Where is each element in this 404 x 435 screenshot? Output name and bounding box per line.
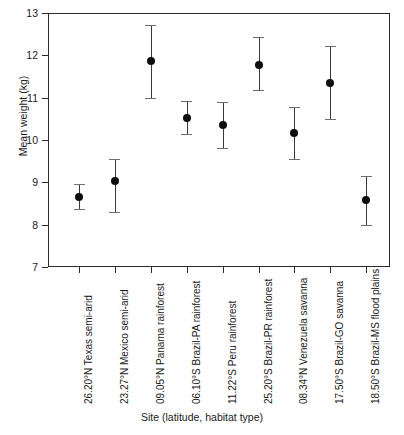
error-cap-upper [325, 46, 336, 47]
error-cap-lower [181, 134, 192, 135]
data-point-marker [255, 61, 263, 69]
error-cap-lower [289, 159, 300, 160]
error-cap-lower [325, 119, 336, 120]
error-cap-lower [253, 90, 264, 91]
data-point-marker [362, 196, 370, 204]
data-point-marker [111, 177, 119, 185]
data-point-marker [183, 114, 191, 122]
error-cap-lower [217, 148, 228, 149]
error-cap-upper [361, 176, 372, 177]
error-cap-upper [109, 159, 120, 160]
error-cap-lower [74, 209, 85, 210]
error-cap-upper [181, 101, 192, 102]
error-cap-upper [217, 102, 228, 103]
x-axis-title: Site (latitude, habitat type) [0, 411, 404, 423]
data-point-marker [147, 57, 155, 65]
figure-panel: Mean weight (kg) 78910111213 26.20°N Tex… [0, 0, 404, 435]
error-cap-upper [253, 37, 264, 38]
data-point-marker [326, 79, 334, 87]
error-cap-lower [361, 225, 372, 226]
data-point-marker [219, 121, 227, 129]
error-cap-upper [289, 107, 300, 108]
data-series-layer [0, 0, 404, 435]
data-point-marker [290, 129, 298, 137]
data-point-marker [75, 193, 83, 201]
error-cap-upper [74, 184, 85, 185]
error-cap-lower [109, 212, 120, 213]
error-cap-upper [145, 25, 156, 26]
error-bar [115, 159, 116, 212]
error-cap-lower [145, 98, 156, 99]
